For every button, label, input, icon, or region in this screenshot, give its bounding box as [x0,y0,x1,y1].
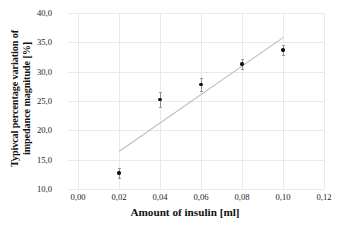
data-point [240,62,243,65]
chart-figure: Typivcal percentage variation of impedan… [0,0,354,232]
x-axis-tick-label: 0,04 [140,192,180,202]
error-bar-cap [159,92,162,93]
error-bar-cap [118,168,121,169]
y-axis-tick-label: 40,0 [6,8,52,18]
x-axis-tick-label: 0,06 [181,192,221,202]
y-axis-tick-label: 25,0 [6,96,52,106]
error-bar-cap [282,45,285,46]
error-bar-cap [282,55,285,56]
x-axis-title: Amount of insulin [ml] [40,206,330,218]
data-points [78,13,324,189]
data-point [117,171,120,174]
y-axis-tick-label: 15,0 [6,155,52,165]
error-bar-cap [118,178,121,179]
y-axis-tick-label: 30,0 [6,67,52,77]
error-bar-cap [200,91,203,92]
data-point [281,48,284,51]
x-axis-tick-label: 0,10 [263,192,303,202]
y-axis-tick-label: 20,0 [6,125,52,135]
error-bar-cap [159,107,162,108]
error-bar-cap [241,59,244,60]
x-axis-tick-label: 0,08 [222,192,262,202]
x-axis-tick-label: 0,02 [99,192,139,202]
x-axis-tick-label: 0,00 [58,192,98,202]
y-axis-tick-label: 35,0 [6,37,52,47]
data-point [158,98,161,101]
plot-area [78,13,324,189]
grid-line-vertical [324,13,325,190]
error-bar-cap [241,69,244,70]
y-axis-tick-label: 10,0 [6,184,52,194]
x-axis-tick-label: 0,12 [304,192,344,202]
grid-line-horizontal [68,189,324,190]
error-bar-cap [200,78,203,79]
data-point [199,83,202,86]
